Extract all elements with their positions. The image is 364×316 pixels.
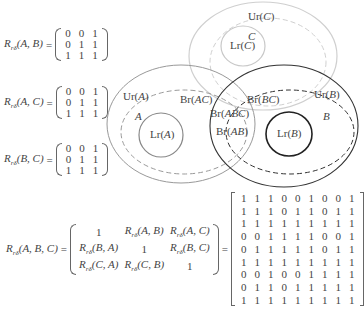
result-matrix-cell: 0 xyxy=(237,243,251,256)
result-matrix-cell: 1 xyxy=(304,281,318,294)
result-matrix-cell: 1 xyxy=(291,256,305,269)
result-matrix-cell: 1 xyxy=(345,256,359,269)
result-matrix-cell: 1 xyxy=(264,217,278,230)
result-matrix-cell: 0 xyxy=(250,230,264,243)
result-matrix-cell: 1 xyxy=(291,205,305,218)
result-matrix-cell: 1 xyxy=(291,230,305,243)
label-a: A xyxy=(134,110,142,122)
result-matrix-cell: 1 xyxy=(331,268,345,281)
label-ur-a: Ur(A) xyxy=(123,90,149,103)
result-matrix-cell: 1 xyxy=(331,281,345,294)
result-matrix-row: 001111001 xyxy=(237,230,359,243)
result-matrix-cell: 1 xyxy=(250,192,264,205)
result-matrix-row: 001001111 xyxy=(237,268,359,281)
result-matrix-cell: 1 xyxy=(345,243,359,256)
result-matrix-cell: 0 xyxy=(291,268,305,281)
result-matrix-cell: 0 xyxy=(277,281,291,294)
label-b: B xyxy=(323,110,330,122)
result-matrix-cell: 1 xyxy=(318,256,332,269)
equals-sign: = xyxy=(61,243,67,255)
result-matrix-cell: 1 xyxy=(264,256,278,269)
result-matrix-cell: 0 xyxy=(331,230,345,243)
result-matrix-row: 111001001 xyxy=(237,192,359,205)
block-matrix-cell: Rrδ(B, A) xyxy=(76,241,121,258)
result-matrix-cell: 1 xyxy=(237,294,251,307)
result-matrix-cell: 1 xyxy=(237,256,251,269)
result-matrix-cell: 0 xyxy=(237,268,251,281)
result-matrix-cell: 1 xyxy=(264,192,278,205)
result-matrix-cell: 1 xyxy=(318,294,332,307)
result-matrix-cell: 1 xyxy=(264,243,278,256)
result-matrix-cell: 1 xyxy=(345,230,359,243)
result-matrix-cell: 1 xyxy=(250,281,264,294)
result-matrix-cell: 1 xyxy=(304,205,318,218)
result-matrix-cell: 1 xyxy=(304,217,318,230)
result-matrix-cell: 0 xyxy=(237,281,251,294)
block-matrix: 1Rrδ(A, B)Rrδ(A, C)Rrδ(B, A)1Rrδ(B, C)Rr… xyxy=(70,224,219,275)
result-matrix-cell: 0 xyxy=(277,192,291,205)
result-matrix-cell: 1 xyxy=(304,294,318,307)
result-matrix-cell: 1 xyxy=(277,243,291,256)
result-matrix-cell: 1 xyxy=(318,268,332,281)
result-matrix-cell: 1 xyxy=(345,205,359,218)
label-lr-c: Lr(C) xyxy=(230,39,255,52)
label-br-ab: Br(AB) xyxy=(216,125,248,138)
result-matrix-cell: 1 xyxy=(250,294,264,307)
result-matrix-cell: 1 xyxy=(264,230,278,243)
block-matrix-row: Rrδ(C, A)Rrδ(C, B)1 xyxy=(76,258,213,275)
label-lr-b: Lr(B) xyxy=(277,127,302,140)
result-matrix-cell: 1 xyxy=(331,294,345,307)
block-matrix-cell: Rrδ(A, C) xyxy=(167,224,213,241)
block-matrix-cell: Rrδ(B, C) xyxy=(167,241,213,258)
result-matrix-row: 111111111 xyxy=(237,294,359,307)
block-matrix-cell: 1 xyxy=(167,258,213,275)
block-matrix-cell: Rrδ(A, B) xyxy=(121,224,167,241)
result-matrix-cell: 1 xyxy=(291,281,305,294)
result-matrix: 1110010011110110111111111110011110010111… xyxy=(231,192,364,306)
result-matrix-cell: 1 xyxy=(277,256,291,269)
result-matrix-cell: 1 xyxy=(264,268,278,281)
result-matrix-row: 011011111 xyxy=(237,281,359,294)
result-matrix-cell: 1 xyxy=(291,294,305,307)
result-matrix-cell: 1 xyxy=(331,256,345,269)
result-matrix-cell: 1 xyxy=(291,243,305,256)
block-matrix-cell: Rrδ(C, B) xyxy=(121,258,167,275)
result-matrix-cell: 1 xyxy=(250,256,264,269)
result-matrix-cell: 1 xyxy=(237,192,251,205)
result-matrix-cell: 1 xyxy=(237,217,251,230)
result-matrix-row: 011111011 xyxy=(237,243,359,256)
result-matrix-cell: 1 xyxy=(250,243,264,256)
result-matrix-cell: 1 xyxy=(345,192,359,205)
result-matrix-cell: 1 xyxy=(304,268,318,281)
result-matrix-cell: 1 xyxy=(277,217,291,230)
result-matrix-cell: 1 xyxy=(318,217,332,230)
lhs-abc: Rrδ(A, B, C) xyxy=(6,242,58,257)
result-matrix-cell: 1 xyxy=(237,205,251,218)
result-matrix-cell: 0 xyxy=(291,192,305,205)
result-matrix-cell: 0 xyxy=(318,230,332,243)
result-matrix-cell: 0 xyxy=(318,192,332,205)
result-matrix-cell: 0 xyxy=(237,230,251,243)
result-matrix-cell: 1 xyxy=(304,192,318,205)
block-matrix-cell: 1 xyxy=(76,224,121,241)
result-matrix-cell: 1 xyxy=(264,281,278,294)
result-matrix-cell: 1 xyxy=(331,205,345,218)
label-lr-a: Lr(A) xyxy=(150,128,175,141)
result-matrix-cell: 1 xyxy=(304,256,318,269)
result-matrix-cell: 1 xyxy=(318,281,332,294)
result-matrix-cell: 0 xyxy=(277,205,291,218)
label-br-abc: Br(ABC) xyxy=(210,107,249,120)
result-matrix-cell: 1 xyxy=(331,243,345,256)
result-matrix-cell: 1 xyxy=(250,217,264,230)
result-matrix-cell: 1 xyxy=(304,230,318,243)
result-matrix-row: 111011011 xyxy=(237,205,359,218)
block-matrix-row: 1Rrδ(A, B)Rrδ(A, C) xyxy=(76,224,213,241)
result-matrix-cell: 0 xyxy=(250,268,264,281)
result-matrix-cell: 0 xyxy=(318,243,332,256)
result-matrix-cell: 1 xyxy=(345,217,359,230)
result-matrix-cell: 1 xyxy=(250,205,264,218)
result-matrix-cell: 1 xyxy=(291,217,305,230)
label-br-bc: Br(BC) xyxy=(247,93,280,106)
equals-sign: = xyxy=(222,243,228,255)
block-matrix-cell: 1 xyxy=(121,241,167,258)
